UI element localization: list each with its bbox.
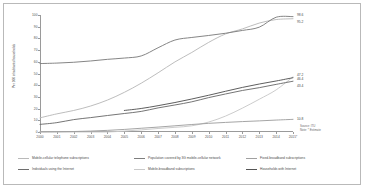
- x-tick-label: 2002: [70, 135, 77, 139]
- x-tick-label: 2013: [256, 135, 263, 139]
- series-line: [40, 81, 293, 124]
- x-tick-mark: [276, 132, 277, 134]
- series-end-label: 43.4: [297, 84, 303, 88]
- x-tick-label: 2015*: [289, 135, 298, 139]
- legend-swatch-line-icon: [134, 158, 145, 159]
- series-line: [40, 119, 293, 132]
- y-tick-label: 10: [34, 118, 38, 122]
- x-tick-mark: [141, 132, 142, 134]
- legend-item[interactable]: Mobile-broadband subscriptions: [134, 167, 195, 171]
- y-tick-label: 50: [34, 72, 38, 76]
- x-tick-label: 2003: [87, 135, 94, 139]
- legend-label: Households with Internet: [260, 167, 296, 171]
- x-tick-label: 2005: [121, 135, 128, 139]
- series-end-label: 98.6: [297, 13, 303, 17]
- x-tick-label: 2008: [171, 135, 178, 139]
- legend-label: Individuals using the Internet: [32, 167, 74, 171]
- y-tick-label: 20: [34, 107, 38, 111]
- legend-item[interactable]: Households with Internet: [246, 167, 296, 171]
- legend-swatch-line-icon: [246, 169, 257, 170]
- x-tick-label: 2007: [154, 135, 161, 139]
- series-end-label: 46.4: [297, 77, 303, 81]
- legend-swatch-line-icon: [134, 169, 145, 170]
- x-tick-label: 2000: [36, 135, 43, 139]
- y-tick-label: 80: [34, 36, 38, 40]
- legend-label: Mobile-broadband subscriptions: [148, 167, 195, 171]
- x-tick-label: 2010: [205, 135, 212, 139]
- legend-label: Mobile-cellular telephone subscriptions: [32, 156, 89, 160]
- source-note: Source: ITU Note: * Estimate: [300, 124, 321, 132]
- axes: 0102030405060708090100 20002001200220032…: [40, 15, 293, 132]
- legend-item[interactable]: Fixed-broadband subscriptions: [246, 156, 305, 160]
- legend-swatch-line-icon: [18, 158, 29, 159]
- legend-item[interactable]: Individuals using the Internet: [18, 167, 74, 171]
- y-tick-label: 60: [34, 60, 38, 64]
- chart-frame: Per 100 inhabitants/households 010203040…: [3, 3, 361, 185]
- x-tick-mark: [226, 132, 227, 134]
- series-line: [40, 19, 293, 118]
- legend-item[interactable]: Population covered by 3G mobile-cellular…: [134, 156, 221, 160]
- x-tick-mark: [175, 132, 176, 134]
- note-text: Note: * Estimate: [300, 128, 321, 132]
- x-tick-label: 2009: [188, 135, 195, 139]
- series-line: [40, 16, 293, 63]
- plot-area: Per 100 inhabitants/households 010203040…: [4, 4, 362, 152]
- legend-swatch-line-icon: [18, 169, 29, 170]
- series-end-label: 95.2: [297, 20, 303, 24]
- series-lines: [40, 15, 293, 132]
- chart-legend: Mobile-cellular telephone subscriptionsI…: [18, 156, 354, 182]
- x-tick-mark: [192, 132, 193, 134]
- x-tick-mark: [259, 132, 260, 134]
- x-tick-mark: [242, 132, 243, 134]
- x-tick-label: 2012: [239, 135, 246, 139]
- x-tick-mark: [124, 132, 125, 134]
- series-end-label: 10.8: [297, 117, 303, 121]
- legend-swatch-line-icon: [246, 158, 257, 159]
- x-tick-label: 2014: [272, 135, 279, 139]
- y-tick-label: 40: [34, 83, 38, 87]
- y-axis-title: Per 100 inhabitants/households: [12, 23, 16, 109]
- x-tick-label: 2004: [104, 135, 111, 139]
- y-tick-label: 90: [34, 25, 38, 29]
- legend-label: Fixed-broadband subscriptions: [260, 156, 305, 160]
- legend-item[interactable]: Mobile-cellular telephone subscriptions: [18, 156, 89, 160]
- x-tick-label: 2006: [138, 135, 145, 139]
- x-tick-mark: [158, 132, 159, 134]
- series-line: [124, 78, 293, 111]
- y-tick-label: 70: [34, 48, 38, 52]
- x-tick-label: 2001: [53, 135, 60, 139]
- y-tick-label: 100: [32, 13, 38, 17]
- x-tick-mark: [293, 132, 294, 134]
- legend-label: Population covered by 3G mobile-cellular…: [148, 156, 221, 160]
- x-tick-mark: [209, 132, 210, 134]
- x-tick-label: 2011: [222, 135, 229, 139]
- y-tick-label: 30: [34, 95, 38, 99]
